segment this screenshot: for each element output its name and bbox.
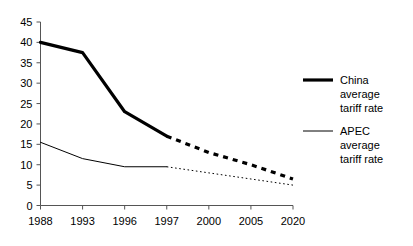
y-axis-ticks xyxy=(37,22,41,206)
tariff-rate-line-chart: 051015202530354045 198819931996199720002… xyxy=(0,0,413,246)
legend-item-label: China xyxy=(340,74,370,86)
y-axis-tick-label: 35 xyxy=(20,57,32,69)
x-axis-tick-label: 1993 xyxy=(70,215,94,227)
x-axis-tick-label: 1996 xyxy=(112,215,136,227)
x-axis-tick-labels: 1988199319961997200020052020 xyxy=(28,215,305,227)
y-axis-tick-labels: 051015202530354045 xyxy=(20,16,32,212)
legend-item-label: tariff rate xyxy=(340,102,383,114)
data-series-layer xyxy=(41,42,294,185)
x-axis-tick-label: 2005 xyxy=(239,215,263,227)
x-axis-ticks xyxy=(41,206,294,210)
chart-canvas: 051015202530354045 198819931996199720002… xyxy=(0,0,413,246)
x-axis-tick-label: 2000 xyxy=(197,215,221,227)
y-axis-tick-label: 20 xyxy=(20,118,32,130)
legend-item-label: average xyxy=(340,88,380,100)
y-axis-tick-label: 45 xyxy=(20,16,32,28)
x-axis-tick-label: 1997 xyxy=(155,215,179,227)
axes-group xyxy=(41,22,294,206)
y-axis-tick-label: 40 xyxy=(20,36,32,48)
series-line-dashed xyxy=(167,136,293,179)
y-axis-tick-label: 0 xyxy=(26,200,32,212)
y-axis-tick-label: 30 xyxy=(20,77,32,89)
y-axis-tick-label: 10 xyxy=(20,159,32,171)
x-axis-tick-label: 1988 xyxy=(28,215,52,227)
series-line-dashed xyxy=(167,167,293,185)
series-line-solid xyxy=(41,42,167,136)
legend-item-label: APEC xyxy=(340,125,370,137)
x-axis-tick-label: 2020 xyxy=(281,215,305,227)
y-axis-tick-label: 5 xyxy=(26,179,32,191)
y-axis-tick-label: 25 xyxy=(20,98,32,110)
legend-item-label: average xyxy=(340,139,380,151)
series-line-solid xyxy=(41,142,167,166)
legend-item-label: tariff rate xyxy=(340,153,383,165)
y-axis-tick-label: 15 xyxy=(20,138,32,150)
chart-legend: Chinaaveragetariff rateAPECaveragetariff… xyxy=(303,74,383,165)
